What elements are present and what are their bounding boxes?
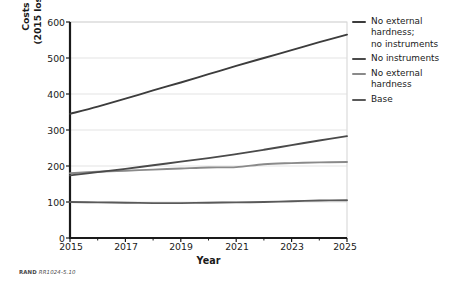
y-tick-label-600: 600 bbox=[34, 17, 65, 28]
x-tick-label-2023: 2023 bbox=[280, 241, 304, 252]
legend-swatch-icon-2 bbox=[352, 73, 366, 75]
x-tick-label-2017: 2017 bbox=[114, 241, 138, 252]
source-note: RAND RR1024-5.10 bbox=[19, 269, 76, 275]
source-note-id: RR1024-5.10 bbox=[39, 269, 76, 275]
legend-item-0[interactable]: No external hardness; no instruments bbox=[352, 16, 459, 50]
y-tick-label-100: 100 bbox=[34, 197, 65, 208]
y-axis-title-line1: Costs over time, by percentage bbox=[20, 0, 32, 31]
y-tick-label-500: 500 bbox=[34, 53, 65, 64]
y-tick-label-300: 300 bbox=[34, 125, 65, 136]
legend-swatch-icon-3 bbox=[352, 99, 366, 101]
chart-figure: Costs over time, by percentage (2015 los… bbox=[0, 0, 461, 288]
chart-legend: No external hardness; no instruments No … bbox=[352, 16, 459, 109]
x-tick-label-2021: 2021 bbox=[225, 241, 249, 252]
y-tick-label-200: 200 bbox=[34, 161, 65, 172]
x-tick-label-2019: 2019 bbox=[169, 241, 193, 252]
legend-item-1[interactable]: No instruments bbox=[352, 53, 459, 64]
legend-label-1: No instruments bbox=[371, 53, 439, 64]
legend-swatch-icon-1 bbox=[352, 58, 366, 60]
x-tick-label-2025: 2025 bbox=[333, 241, 357, 252]
source-note-prefix: RAND bbox=[19, 269, 37, 275]
x-axis-title: Year bbox=[70, 255, 347, 266]
legend-item-2[interactable]: No external hardness bbox=[352, 68, 459, 91]
legend-label-0: No external hardness; no instruments bbox=[371, 16, 438, 50]
y-tick-label-400: 400 bbox=[34, 89, 65, 100]
legend-label-3: Base bbox=[371, 94, 393, 105]
legend-label-2: No external hardness bbox=[371, 68, 422, 91]
legend-item-3[interactable]: Base bbox=[352, 94, 459, 105]
legend-swatch-icon-0 bbox=[352, 21, 366, 23]
x-tick-label-2015: 2015 bbox=[59, 241, 83, 252]
